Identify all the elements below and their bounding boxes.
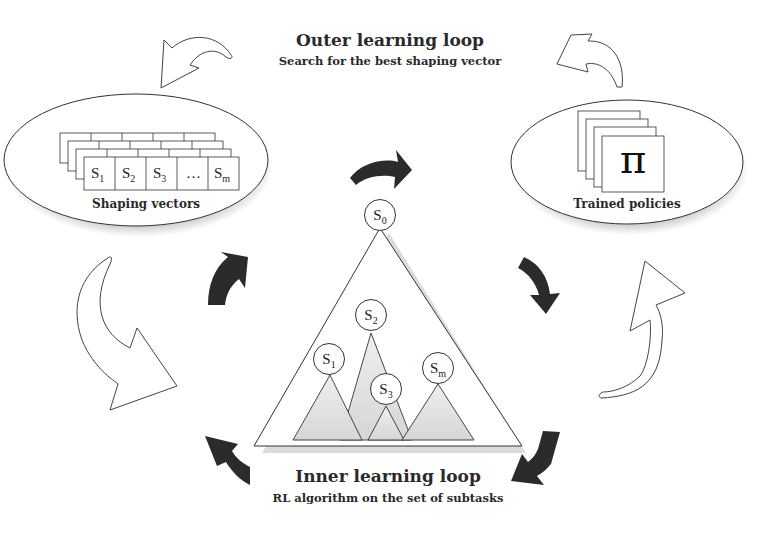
trained-policies-label: Trained policies <box>562 197 692 211</box>
inner-loop-subtitle: RL algorithm on the set of subtasks <box>248 491 528 505</box>
outline-arrow-right-icon <box>599 261 685 398</box>
outer-loop-title: Outer learning loop <box>260 30 520 50</box>
shaping-cell: S3 <box>153 165 166 184</box>
shaping-cell: S2 <box>122 165 135 184</box>
task-tree <box>254 228 526 453</box>
outline-arrow-top-left-icon <box>161 37 232 88</box>
dark-arrow-left-icon <box>208 252 248 305</box>
tree-node-sm: Sm <box>422 352 454 384</box>
outline-arrow-left-icon <box>77 257 177 410</box>
dark-arrow-top-icon <box>350 150 412 189</box>
shaping-cell: … <box>186 165 201 184</box>
dark-arrow-right-icon <box>518 257 560 314</box>
tree-node-root: S0 <box>364 199 396 231</box>
shaping-cell: S1 <box>91 165 104 184</box>
diagram-canvas <box>0 0 776 539</box>
shaping-vectors-label: Shaping vectors <box>76 197 216 211</box>
outline-arrow-top-right-icon <box>557 34 622 87</box>
dark-arrow-bottom-right-icon <box>511 431 560 485</box>
pi-symbol: π <box>620 136 646 182</box>
outer-loop-subtitle: Search for the best shaping vector <box>260 54 520 68</box>
tree-node-s2: S2 <box>355 299 387 331</box>
shaping-vectors-ellipse <box>4 94 273 237</box>
inner-loop-title: Inner learning loop <box>258 466 518 486</box>
tree-node-s1: S1 <box>313 343 345 375</box>
dark-arrow-bottom-left-icon <box>205 436 250 485</box>
tree-node-s3: S3 <box>370 373 402 405</box>
shaping-cell: Sm <box>214 165 230 184</box>
